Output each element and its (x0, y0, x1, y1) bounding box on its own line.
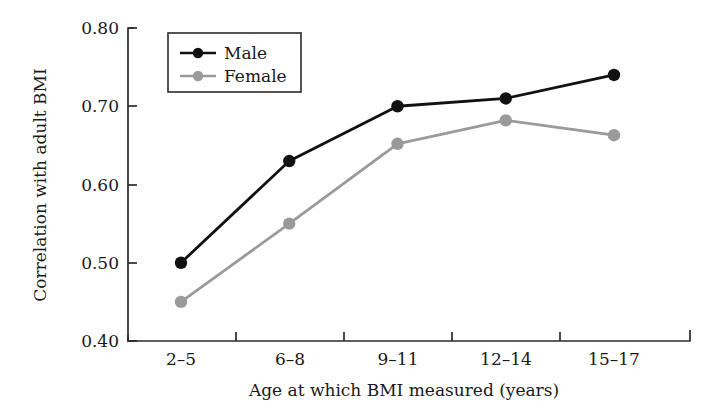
data-point-female-0[interactable] (175, 296, 187, 308)
legend-marker-female (193, 71, 203, 81)
x-tick-label-6-8: 6–8 (275, 349, 305, 369)
y-tick-label-050: 0.50 (81, 253, 119, 273)
x-tick-label-9-11: 9–11 (378, 349, 419, 369)
chart-legend: Male Female (168, 33, 301, 92)
y-tick-label-060: 0.60 (81, 175, 119, 195)
data-point-male-3[interactable] (500, 92, 512, 104)
data-point-female-3[interactable] (500, 114, 512, 126)
y-axis-title: Correlation with adult BMI (30, 68, 50, 301)
legend-marker-male (193, 48, 203, 58)
legend-label-male: Male (224, 43, 267, 63)
x-tick-label-2-5: 2–5 (166, 349, 196, 369)
y-tick-label-080: 0.80 (81, 18, 119, 38)
legend-label-female: Female (224, 66, 287, 86)
y-tick-label-040: 0.40 (81, 331, 119, 351)
x-tick-label-12-14: 12–14 (480, 349, 532, 369)
series-female (175, 114, 620, 308)
data-point-male-4[interactable] (608, 69, 620, 81)
data-point-female-2[interactable] (391, 138, 403, 150)
chart-figure: 0.40 0.50 0.60 0.70 0.80 2–5 6–8 9–11 12… (0, 0, 713, 410)
data-point-male-1[interactable] (283, 155, 295, 167)
series-male (175, 69, 620, 269)
data-point-female-1[interactable] (283, 217, 295, 229)
y-axis-ticks (128, 28, 137, 341)
data-point-male-2[interactable] (391, 100, 403, 112)
y-tick-label-070: 0.70 (81, 96, 119, 116)
line-chart: 0.40 0.50 0.60 0.70 0.80 2–5 6–8 9–11 12… (0, 0, 713, 410)
x-axis-line (128, 330, 690, 341)
x-tick-label-15-17: 15–17 (588, 349, 640, 369)
data-point-female-4[interactable] (608, 129, 620, 141)
x-axis-ticks (236, 332, 560, 341)
x-axis-title: Age at which BMI measured (years) (248, 380, 559, 400)
series-layer (175, 69, 620, 308)
data-point-male-0[interactable] (175, 257, 187, 269)
